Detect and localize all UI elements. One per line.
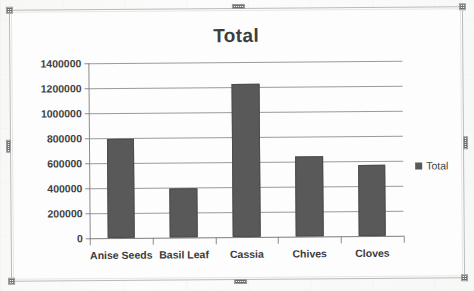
x-axis-tick-4	[341, 236, 342, 243]
plot-area[interactable]	[88, 61, 403, 238]
bar-basil-leaf[interactable]	[170, 189, 198, 238]
bar-cassia[interactable]	[232, 84, 261, 237]
gridlines	[88, 61, 402, 63]
bar-chives[interactable]	[295, 156, 323, 236]
x-axis-tick-1	[153, 238, 154, 245]
y-axis-label-1400000: 1400000	[9, 57, 81, 70]
y-axis-tick-1000000	[85, 113, 90, 114]
y-axis-label-1000000: 1000000	[10, 107, 82, 120]
x-axis-tick-5	[404, 236, 405, 243]
legend-swatch-total	[415, 162, 422, 169]
x-axis-tick-3	[278, 237, 279, 244]
y-axis-label-400000: 400000	[10, 182, 82, 195]
y-axis-label-0: 0	[11, 232, 83, 245]
x-axis-label-cloves: Cloves	[355, 247, 390, 259]
y-axis-tick-labels: 0200000400000600000800000100000012000001…	[10, 63, 82, 239]
chart-object[interactable]: Total 0200000400000600000800000100000012…	[9, 6, 465, 282]
x-axis-label-chives: Chives	[292, 247, 327, 259]
legend-label-total: Total	[426, 159, 448, 171]
y-axis-label-1200000: 1200000	[10, 82, 82, 95]
x-axis-label-basil-leaf: Basil Leaf	[159, 248, 209, 260]
y-axis-tick-600000	[85, 163, 90, 164]
x-axis-label-anise-seeds: Anise Seeds	[90, 249, 153, 261]
x-axis-category-labels: Anise SeedsBasil LeafCassiaChivesCloves	[90, 247, 404, 269]
y-axis-tick-800000	[85, 138, 90, 139]
bar-anise-seeds[interactable]	[107, 138, 135, 238]
bar-cloves[interactable]	[358, 165, 386, 236]
x-axis-tick-2	[215, 237, 216, 244]
x-axis-label-cassia: Cassia	[230, 248, 264, 260]
y-axis-tick-200000	[86, 213, 91, 214]
y-axis-tick-1200000	[85, 88, 90, 89]
y-axis-label-800000: 800000	[10, 132, 82, 145]
y-axis-tick-1400000	[84, 63, 89, 64]
y-axis-label-200000: 200000	[10, 207, 82, 220]
gridline-1400000	[88, 61, 402, 64]
x-axis-tick-0	[90, 238, 91, 245]
chart-legend[interactable]: Total	[415, 159, 448, 171]
y-axis-tick-400000	[85, 188, 90, 189]
chart-plot-wrapper: 0200000400000600000800000100000012000001…	[10, 7, 466, 283]
y-axis-label-600000: 600000	[10, 157, 82, 170]
